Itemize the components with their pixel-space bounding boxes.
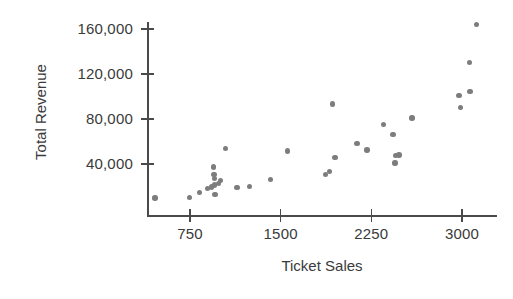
y-axis-tick — [141, 73, 154, 75]
scatter-point — [396, 152, 401, 157]
scatter-point — [218, 178, 223, 183]
scatter-plot-figure: 40,00080,000120,000160,000 7501500225030… — [0, 0, 513, 299]
scatter-point — [234, 185, 239, 190]
x-axis-tick-label: 3000 — [427, 226, 497, 242]
scatter-point — [409, 115, 414, 120]
scatter-point — [211, 164, 216, 169]
scatter-point — [474, 22, 479, 27]
y-axis-tick-label: 80,000 — [47, 111, 133, 126]
scatter-point — [456, 93, 461, 98]
scatter-point — [247, 184, 252, 189]
y-axis-title: Total Revenue — [33, 37, 49, 187]
x-axis-title: Ticket Sales — [147, 258, 497, 274]
y-axis-tick-label: 40,000 — [47, 156, 133, 171]
x-axis-tick-label: 750 — [155, 226, 225, 242]
scatter-point — [392, 160, 397, 165]
scatter-point — [212, 192, 217, 197]
scatter-point — [330, 101, 335, 106]
x-axis-tick — [461, 209, 463, 222]
x-axis-tick — [280, 209, 282, 222]
y-axis-tick-label: 160,000 — [47, 21, 133, 36]
scatter-point — [354, 141, 359, 146]
plot-area: 40,00080,000120,000160,000 7501500225030… — [0, 0, 513, 299]
y-axis-tick — [141, 118, 154, 120]
scatter-point — [187, 195, 192, 200]
scatter-point — [327, 169, 332, 174]
scatter-point — [467, 60, 472, 65]
scatter-point — [381, 122, 386, 127]
scatter-point — [197, 190, 202, 195]
x-axis-tick — [189, 209, 191, 222]
scatter-point — [285, 148, 290, 153]
x-axis-tick-label: 2250 — [336, 226, 406, 242]
x-axis-tick-label: 1500 — [246, 226, 316, 242]
scatter-point — [223, 146, 228, 151]
scatter-point — [390, 132, 395, 137]
y-axis-tick-label: 120,000 — [47, 66, 133, 81]
scatter-point — [458, 105, 463, 110]
y-axis-tick — [141, 163, 154, 165]
x-axis-line — [147, 215, 497, 217]
scatter-point — [268, 177, 273, 182]
x-axis-tick — [371, 209, 373, 222]
scatter-point — [364, 147, 369, 152]
y-axis-tick — [141, 28, 154, 30]
scatter-point — [152, 195, 157, 200]
scatter-point — [332, 155, 337, 160]
scatter-point — [467, 89, 472, 94]
